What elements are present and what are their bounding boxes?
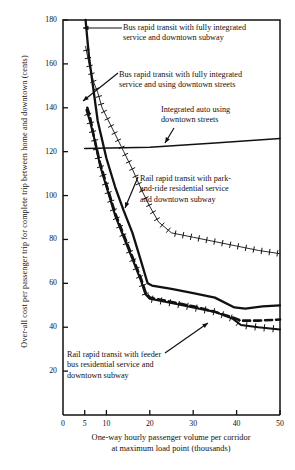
x-tick-label: 0	[53, 419, 73, 428]
annotation-line: downtown streets	[161, 115, 230, 125]
annotation-leader-bus-subway	[83, 26, 122, 31]
annotation-line: service and using downtown streets	[119, 80, 242, 90]
annotation-line: Bus rapid transit with fully integrated	[119, 70, 242, 80]
series-5	[84, 110, 280, 332]
annotation-line: Rail rapid transit with park-	[140, 174, 231, 184]
y-tick-label: 120	[35, 147, 57, 156]
y-tick-label: 140	[35, 103, 57, 112]
x-tick-label: 50	[270, 419, 290, 428]
annotation-leader-bus-streets	[83, 73, 118, 101]
annotation-line: Bus rapid transit with fully integrated	[123, 23, 246, 33]
x-tick-label: 10	[96, 419, 116, 428]
y-tick-label: 40	[35, 322, 57, 331]
series-line	[86, 110, 280, 329]
series-line	[85, 139, 280, 149]
y-tick-label: 160	[35, 59, 57, 68]
y-tick-label: 180	[35, 15, 57, 24]
annotation-leader-rail-park-and-ride	[125, 177, 138, 208]
series-1	[86, 20, 280, 309]
annotation-line: downtown subway	[67, 371, 161, 381]
y-tick-label: 80	[35, 234, 57, 243]
annotation-rail-park-and-ride: Rail rapid transit with park-and-ride re…	[140, 174, 231, 205]
annotation-line: service and downtown subway	[123, 33, 246, 43]
annotation-line: bus residential service and	[67, 360, 161, 370]
annotation-line: and downtown subway	[140, 195, 231, 205]
annotation-line: Integrated auto using	[161, 105, 230, 115]
x-tick-label: 40	[227, 419, 247, 428]
y-tick-label: 100	[35, 191, 57, 200]
y-tick-label: 60	[35, 278, 57, 287]
x-tick-label: 30	[183, 419, 203, 428]
annotation-line: and-ride residential service	[140, 184, 231, 194]
annotation-leader-rail-feeder-bus	[165, 323, 208, 353]
series-3	[85, 139, 280, 149]
annotation-rail-feeder-bus: Rail rapid transit with feederbus reside…	[67, 350, 161, 381]
annotation-bus-streets: Bus rapid transit with fully integrateds…	[119, 70, 242, 91]
y-tick-label: 20	[35, 366, 57, 375]
annotation-line: Rail rapid transit with feeder	[67, 350, 161, 360]
annotation-bus-subway: Bus rapid transit with fully integrateds…	[123, 23, 246, 44]
chart-figure: Over-all cost per passenger trip for com…	[0, 0, 295, 470]
series-line	[86, 20, 280, 309]
x-tick-label: 20	[140, 419, 160, 428]
x-tick-label: 5	[75, 419, 95, 428]
annotation-leader-integrated-auto	[165, 128, 174, 143]
annotation-integrated-auto: Integrated auto usingdowntown streets	[161, 105, 230, 126]
